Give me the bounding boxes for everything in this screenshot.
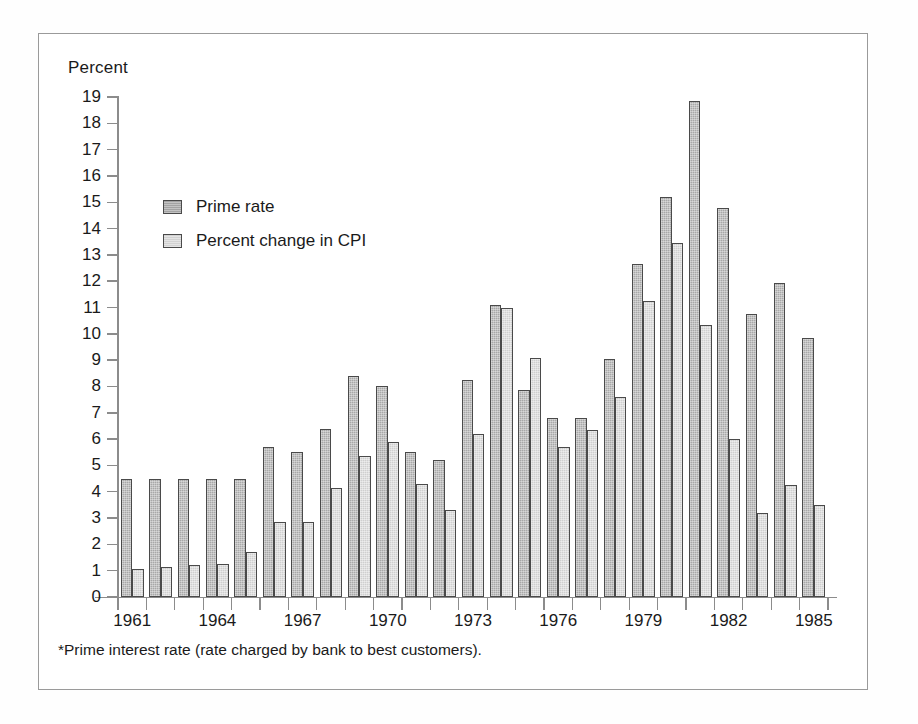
- x-axis-tick: [600, 597, 601, 610]
- x-axis-tick: [515, 597, 516, 610]
- bar-prime-1969: [348, 376, 359, 597]
- bar-cpi-1974: [501, 308, 512, 597]
- y-axis-tick: [107, 438, 118, 440]
- y-axis-tick: [107, 465, 118, 467]
- bar-prime-1976: [547, 418, 558, 597]
- bar-cpi-1984: [785, 485, 796, 597]
- bar-cpi-1981: [700, 325, 711, 597]
- y-axis-label: 11: [61, 299, 101, 316]
- x-axis-label: 1967: [284, 611, 322, 631]
- y-axis-tick: [107, 517, 118, 519]
- bar-prime-1981: [689, 101, 700, 597]
- bar-cpi-1970: [388, 442, 399, 597]
- bar-prime-1973: [462, 380, 473, 597]
- legend-label-prime-rate: Prime rate: [196, 197, 274, 217]
- y-axis-label-wrap: 18: [57, 114, 101, 131]
- y-axis-tick: [107, 175, 118, 177]
- y-axis-label-wrap: 13: [57, 246, 101, 263]
- bar-cpi-1971: [416, 484, 427, 597]
- bar-cpi-1962: [161, 567, 172, 597]
- y-axis-label-wrap: 17: [57, 141, 101, 158]
- y-axis-label-wrap: 4: [57, 483, 101, 500]
- bar-prime-1974: [490, 305, 501, 597]
- x-axis-tick: [799, 597, 800, 610]
- bar-prime-1968: [320, 429, 331, 597]
- y-axis-label: 1: [61, 562, 101, 579]
- x-axis-tick: [430, 597, 431, 610]
- x-axis-label: 1985: [795, 611, 833, 631]
- y-axis-tick: [107, 412, 118, 414]
- y-axis-tick: [107, 228, 118, 230]
- bar-cpi-1969: [359, 456, 370, 597]
- x-axis-tick: [742, 597, 743, 610]
- x-axis-tick: [117, 597, 118, 610]
- x-axis-tick: [373, 597, 374, 610]
- y-axis-label: 16: [61, 167, 101, 184]
- y-axis-tick: [107, 359, 118, 361]
- legend-item-cpi: Percent change in CPI: [163, 224, 366, 258]
- y-axis-tick: [107, 307, 118, 309]
- bar-cpi-1964: [217, 564, 228, 597]
- plot-area: [118, 97, 828, 597]
- y-axis-tick: [107, 491, 118, 493]
- bar-prime-1965: [234, 479, 245, 597]
- bar-cpi-1978: [615, 397, 626, 597]
- x-axis-tick: [827, 597, 828, 610]
- legend-item-prime-rate: Prime rate: [163, 190, 366, 224]
- x-axis-tick: [657, 597, 658, 610]
- bar-cpi-1973: [473, 434, 484, 597]
- x-axis-tick: [629, 597, 630, 610]
- bar-cpi-1972: [445, 510, 456, 597]
- y-axis-label: 15: [61, 193, 101, 210]
- bar-prime-1966: [263, 447, 274, 597]
- y-axis-tick: [107, 386, 118, 388]
- bar-prime-1962: [149, 479, 160, 597]
- bar-cpi-1977: [587, 430, 598, 597]
- y-axis-label-wrap: 7: [57, 404, 101, 421]
- bar-cpi-1976: [558, 447, 569, 597]
- x-axis-label: 1970: [369, 611, 407, 631]
- bar-prime-1961: [121, 479, 132, 597]
- y-axis-label: 3: [61, 509, 101, 526]
- y-axis-label: 8: [61, 377, 101, 394]
- y-axis-label-wrap: 6: [57, 430, 101, 447]
- bar-prime-1975: [518, 390, 529, 597]
- chart-footnote: *Prime interest rate (rate charged by ba…: [58, 641, 482, 659]
- y-axis-tick: [107, 544, 118, 546]
- y-axis-label: 2: [61, 535, 101, 552]
- y-axis-label: 13: [61, 246, 101, 263]
- bar-prime-1977: [575, 418, 586, 597]
- x-axis-label: 1964: [198, 611, 236, 631]
- y-axis-label: 14: [61, 220, 101, 237]
- y-axis-label-wrap: 16: [57, 167, 101, 184]
- bar-prime-1971: [405, 452, 416, 597]
- y-axis-label-wrap: 15: [57, 193, 101, 210]
- x-axis-tick: [458, 597, 459, 610]
- y-axis-label-wrap: 12: [57, 272, 101, 289]
- chart-figure: Percent 012345678910111213141516171819 1…: [0, 0, 918, 724]
- x-axis-tick: [288, 597, 289, 610]
- bar-prime-1970: [376, 386, 387, 597]
- y-axis-tick: [107, 123, 118, 125]
- bar-cpi-1979: [643, 301, 654, 597]
- y-axis-label-wrap: 1: [57, 562, 101, 579]
- y-axis-label: 4: [61, 483, 101, 500]
- bar-cpi-1961: [132, 569, 143, 597]
- x-axis-tick: [231, 597, 232, 610]
- y-axis-label-wrap: 2: [57, 535, 101, 552]
- x-axis-label: 1979: [624, 611, 662, 631]
- bar-prime-1978: [604, 359, 615, 597]
- bar-prime-1967: [291, 452, 302, 597]
- y-axis-label: 7: [61, 404, 101, 421]
- legend-label-cpi: Percent change in CPI: [196, 231, 366, 251]
- bar-prime-1972: [433, 460, 444, 597]
- x-axis-tick: [174, 597, 175, 610]
- y-axis-tick: [107, 149, 118, 151]
- y-axis-label-wrap: 0: [57, 588, 101, 605]
- chart-legend: Prime rate Percent change in CPI: [163, 190, 366, 258]
- bar-cpi-1982: [729, 439, 740, 597]
- x-axis-label: 1961: [113, 611, 151, 631]
- y-axis-label: 17: [61, 141, 101, 158]
- y-axis-label: 0: [61, 588, 101, 605]
- y-axis-label-wrap: 3: [57, 509, 101, 526]
